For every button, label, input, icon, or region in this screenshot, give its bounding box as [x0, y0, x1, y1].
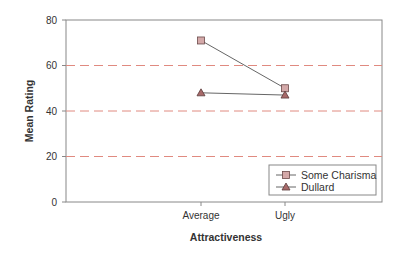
- triangle-marker: [197, 89, 205, 96]
- y-tick-label: 60: [46, 60, 58, 71]
- y-tick-label: 20: [46, 151, 58, 162]
- gridlines: [66, 66, 382, 157]
- square-marker: [198, 37, 205, 44]
- series-line: [201, 93, 285, 95]
- y-axis-title: Mean Rating: [23, 80, 35, 142]
- square-marker: [283, 172, 290, 179]
- x-tick-label: Average: [182, 210, 220, 221]
- y-axis-ticks: 020406080: [46, 15, 66, 208]
- legend-label: Some Charisma: [301, 169, 376, 181]
- series-line: [201, 40, 285, 88]
- x-axis-title: Attractiveness: [190, 231, 263, 243]
- series-dullard: [197, 89, 289, 98]
- series-some-charisma: [198, 37, 289, 92]
- y-tick-label: 80: [46, 15, 58, 26]
- legend-label: Dullard: [301, 181, 334, 193]
- chart: 020406080 AverageUgly Some CharismaDulla…: [0, 0, 401, 255]
- x-axis-ticks: AverageUgly: [182, 202, 295, 221]
- x-tick-label: Ugly: [275, 210, 295, 221]
- series-group: [197, 37, 289, 98]
- legend: Some CharismaDullard: [269, 165, 376, 195]
- y-tick-label: 40: [46, 106, 58, 117]
- y-tick-label: 0: [51, 197, 57, 208]
